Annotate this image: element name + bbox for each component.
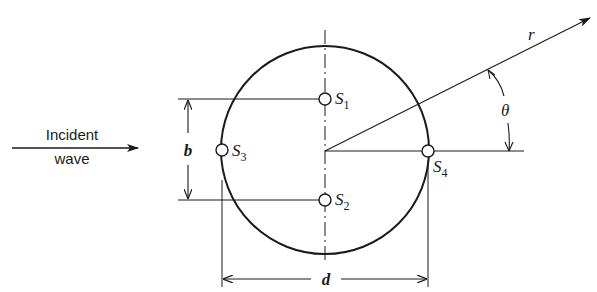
source-s1-marker — [319, 93, 331, 105]
b-dimension — [178, 99, 319, 200]
incident-label-line2: wave — [53, 150, 89, 167]
radius-label: r — [528, 25, 535, 44]
radius-direction-arrow — [325, 18, 590, 151]
incident-label-line1: Incident — [46, 126, 99, 143]
source-s3-marker — [216, 144, 228, 156]
array-geometry-diagram: Incident wave r θ b d S1 S2 — [0, 0, 597, 292]
theta-label: θ — [501, 101, 509, 120]
source-s4-label: S4 — [433, 157, 448, 180]
source-s3-label: S3 — [232, 141, 247, 164]
source-s2-marker — [319, 194, 331, 206]
source-s1-label: S1 — [335, 89, 350, 112]
d-label: d — [322, 270, 331, 289]
source-s4-marker — [422, 145, 434, 157]
b-label: b — [184, 141, 193, 160]
source-s2-label: S2 — [335, 190, 350, 213]
